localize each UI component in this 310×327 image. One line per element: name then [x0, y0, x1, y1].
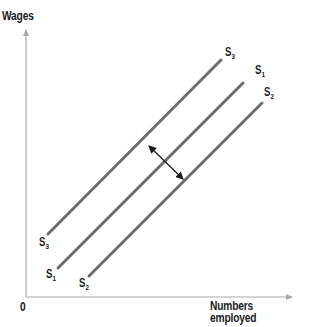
x-axis-label: Numbers employed	[210, 300, 295, 324]
supply-curve-s1	[58, 83, 243, 268]
supply-curve-s3	[48, 60, 221, 234]
supply-curve-s2	[89, 103, 262, 276]
s3-subscript: 3	[231, 52, 235, 61]
s3-label-top: S3	[225, 46, 235, 61]
s2-subscript: 2	[85, 283, 89, 292]
s2-label-bottom: S2	[79, 277, 89, 292]
y-axis-label: Wages	[2, 10, 34, 22]
origin-label: 0	[20, 301, 26, 313]
s1-subscript: 1	[261, 70, 265, 79]
s2-label-top: S2	[264, 86, 274, 101]
s3-label-bottom: S3	[39, 236, 49, 251]
s1-label-bottom: S1	[46, 268, 56, 283]
s2-subscript: 2	[270, 92, 274, 101]
s1-label-top: S1	[255, 64, 265, 79]
shift-double-arrow-icon	[149, 146, 183, 179]
s3-subscript: 3	[45, 242, 49, 251]
s1-subscript: 1	[52, 274, 56, 283]
